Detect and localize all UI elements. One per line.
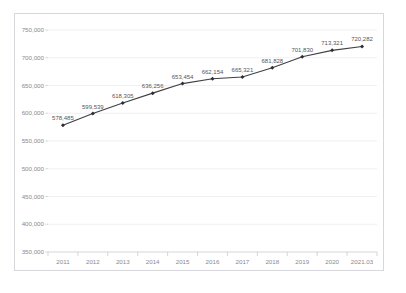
data-point-label: 599,539 — [82, 104, 104, 110]
x-axis-tick-label: 2019 — [295, 258, 309, 265]
y-axis-tick-label: 650,000 — [22, 82, 45, 89]
data-point-label: 618,305 — [112, 93, 134, 99]
data-point-label: 578,485 — [52, 115, 74, 121]
y-axis-tick-label: 750,000 — [22, 26, 45, 33]
data-point-marker — [211, 77, 215, 81]
x-axis-tick-label: 2016 — [206, 258, 220, 265]
data-point-label: 636,256 — [142, 83, 164, 89]
x-axis-tick-label: 2014 — [146, 258, 160, 265]
data-point-marker — [121, 101, 125, 105]
data-point-label: 665,321 — [232, 67, 254, 73]
y-axis-tick-label: 400,000 — [22, 220, 45, 227]
y-axis-tick-label: 350,000 — [22, 248, 45, 255]
data-point-marker — [181, 82, 185, 86]
data-point-marker — [91, 112, 95, 116]
data-point-label: 653,454 — [172, 74, 194, 80]
line-chart-canvas: 350,000400,000450,000500,000550,000600,0… — [0, 0, 406, 293]
x-axis-tick-label: 2021.03 — [351, 258, 374, 265]
x-axis-tick-label: 2015 — [176, 258, 190, 265]
data-point-marker — [330, 48, 334, 52]
x-axis-tick-label: 2012 — [86, 258, 100, 265]
data-point-label: 681,828 — [261, 58, 283, 64]
data-point-label: 662,154 — [202, 69, 224, 75]
data-point-marker — [270, 66, 274, 70]
y-axis-tick-label: 700,000 — [22, 54, 45, 61]
x-axis-tick-label: 2018 — [265, 258, 279, 265]
x-axis-tick-label: 2013 — [116, 258, 130, 265]
y-axis-tick-label: 550,000 — [22, 137, 45, 144]
data-point-label: 701,830 — [291, 47, 313, 53]
data-point-label: 720,282 — [351, 36, 373, 42]
data-point-label: 713,321 — [321, 40, 343, 46]
data-point-marker — [151, 91, 155, 95]
data-point-marker — [61, 123, 65, 127]
chart-plot-area: 350,000400,000450,000500,000550,000600,0… — [0, 0, 406, 293]
x-axis-tick-label: 2011 — [56, 258, 70, 265]
y-axis-tick-label: 500,000 — [22, 165, 45, 172]
x-axis-tick-label: 2017 — [236, 258, 250, 265]
data-point-marker — [360, 44, 364, 48]
x-axis-tick-label: 2020 — [325, 258, 339, 265]
data-point-marker — [240, 75, 244, 79]
data-point-marker — [300, 55, 304, 59]
y-axis-tick-label: 600,000 — [22, 109, 45, 116]
y-axis-tick-label: 450,000 — [22, 193, 45, 200]
